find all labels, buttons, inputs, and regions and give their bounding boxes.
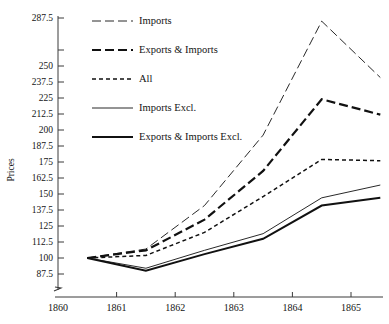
- y-tick-label: 287.5: [32, 13, 54, 23]
- x-tick-label: 1864: [282, 302, 302, 313]
- y-tick-label: 212.5: [32, 109, 54, 119]
- y-tick-label: 150: [39, 189, 54, 199]
- x-tick-label: 1860: [48, 302, 68, 313]
- legend-label: Imports: [139, 15, 172, 26]
- x-tick-label: 1865: [341, 302, 361, 313]
- series-line-exports-imports-excl: [87, 198, 380, 271]
- legend-item: Imports Excl.: [92, 102, 196, 113]
- x-axis-ticks: 186018611862186318641865: [48, 292, 361, 313]
- y-axis-ticks: 87.5100112.5125137.5150162.5175187.52002…: [32, 13, 64, 279]
- legend-label: Imports Excl.: [139, 102, 196, 113]
- legend-label: Exports & Imports: [139, 44, 218, 55]
- y-tick-label: 237.5: [32, 77, 54, 87]
- y-tick-label: 175: [39, 157, 54, 167]
- series-line-exports-imports: [87, 99, 380, 258]
- y-tick-label: 137.5: [32, 205, 54, 215]
- y-tick-label: 112.5: [32, 237, 53, 247]
- legend-item: Exports & Imports Excl.: [92, 131, 242, 142]
- prices-line-chart: 87.5100112.5125137.5150162.5175187.52002…: [0, 0, 389, 324]
- series-line-all: [87, 159, 380, 258]
- legend-label: Exports & Imports Excl.: [139, 131, 242, 142]
- y-tick-label: 87.5: [36, 269, 53, 279]
- y-tick-label: 187.5: [32, 141, 54, 151]
- legend-item: All: [92, 73, 153, 84]
- legend-label: All: [139, 73, 153, 84]
- y-tick-label: 225: [39, 93, 54, 103]
- y-tick-label: 125: [39, 221, 54, 231]
- series-lines: [87, 21, 380, 271]
- chart-legend: ImportsExports & ImportsAllImports Excl.…: [92, 15, 242, 142]
- x-tick-label: 1861: [107, 302, 127, 313]
- y-tick-label: 100: [39, 253, 54, 263]
- chart-container: 87.5100112.5125137.5150162.5175187.52002…: [0, 0, 389, 324]
- y-tick-label: 200: [39, 125, 54, 135]
- axis-break-mark: [54, 287, 61, 291]
- x-tick-label: 1862: [165, 302, 185, 313]
- y-axis-title: Prices: [6, 158, 16, 182]
- y-tick-label: 162.5: [32, 173, 54, 183]
- y-tick-label: 250: [39, 61, 54, 71]
- legend-item: Imports: [92, 15, 172, 26]
- x-tick-label: 1863: [224, 302, 244, 313]
- legend-item: Exports & Imports: [92, 44, 218, 55]
